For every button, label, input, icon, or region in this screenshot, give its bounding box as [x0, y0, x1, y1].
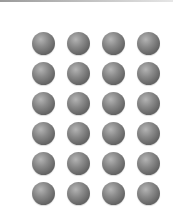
ball-r5-c1: [32, 152, 55, 175]
ball-grid: [0, 0, 173, 219]
ball-r1-c2: [67, 32, 90, 55]
ball-r5-c2: [67, 152, 90, 175]
ball-r6-c4: [137, 182, 160, 205]
ball-r2-c3: [102, 62, 125, 85]
ball-r6-c2: [67, 182, 90, 205]
ball-r1-c1: [32, 32, 55, 55]
ball-r5-c3: [102, 152, 125, 175]
ball-r2-c2: [67, 62, 90, 85]
ball-r1-c3: [102, 32, 125, 55]
ball-r4-c3: [102, 122, 125, 145]
ball-r5-c4: [137, 152, 160, 175]
ball-r3-c4: [137, 92, 160, 115]
ball-r1-c4: [137, 32, 160, 55]
ball-r4-c2: [67, 122, 90, 145]
ball-r3-c2: [67, 92, 90, 115]
ball-r2-c4: [137, 62, 160, 85]
ball-r6-c1: [32, 182, 55, 205]
ball-r4-c1: [32, 122, 55, 145]
ball-r3-c3: [102, 92, 125, 115]
ball-r3-c1: [32, 92, 55, 115]
ball-r6-c3: [102, 182, 125, 205]
ball-r2-c1: [32, 62, 55, 85]
ball-r4-c4: [137, 122, 160, 145]
